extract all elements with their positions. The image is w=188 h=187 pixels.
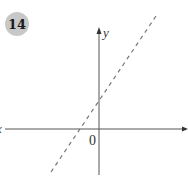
graph-figure: 14 x y 0 bbox=[0, 0, 188, 187]
y-axis-label: y bbox=[101, 25, 109, 40]
origin-label: 0 bbox=[89, 133, 96, 148]
y-axis: y bbox=[97, 25, 110, 175]
y-axis-arrow-icon bbox=[97, 27, 102, 34]
x-axis-label: x bbox=[0, 121, 2, 136]
x-axis-arrow-icon bbox=[182, 127, 188, 132]
question-number: 14 bbox=[8, 17, 26, 32]
question-number-badge: 14 bbox=[5, 12, 29, 36]
